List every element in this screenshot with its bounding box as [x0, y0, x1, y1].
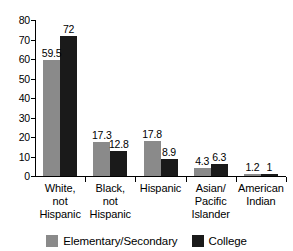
grouped-bar-chart: 01020304050607080 59.57217.312.817.88.94… — [0, 0, 293, 251]
y-axis-tick-mark — [31, 176, 36, 177]
x-axis-category-label: American Indian — [232, 182, 290, 208]
bar-value-label: 6.3 — [203, 152, 236, 163]
bar-elem — [244, 174, 261, 176]
legend-label: Elementary/Secondary — [63, 235, 177, 248]
bar-value-label: 1 — [253, 162, 286, 173]
bar-elem — [194, 168, 211, 176]
y-axis-tick-label: 50 — [0, 73, 30, 85]
legend-swatch-icon — [46, 235, 58, 247]
bar-value-label: 12.8 — [102, 139, 135, 150]
bar-coll — [161, 159, 178, 176]
y-axis-tick-label: 20 — [0, 131, 30, 143]
bar-value-label: 59.5 — [35, 48, 68, 59]
bar-value-label: 8.9 — [153, 147, 186, 158]
legend-item: College — [192, 235, 247, 248]
y-axis-tick-label: 0 — [0, 170, 30, 182]
x-axis-line — [35, 176, 286, 177]
chart-legend: Elementary/SecondaryCollege — [0, 233, 293, 249]
y-axis-tick-label: 40 — [0, 92, 30, 104]
y-axis-tick-label: 10 — [0, 151, 30, 163]
bar-elem — [43, 60, 60, 176]
y-axis-tick-label: 60 — [0, 53, 30, 65]
bar-coll — [110, 151, 127, 176]
legend-swatch-icon — [192, 235, 204, 247]
legend-item: Elementary/Secondary — [46, 235, 177, 248]
y-axis-tick-label: 80 — [0, 14, 30, 26]
y-axis-tick-label: 70 — [0, 34, 30, 46]
bar-value-label: 72 — [52, 24, 85, 35]
legend-label: College — [209, 235, 247, 248]
y-axis-tick-label: 30 — [0, 112, 30, 124]
bar-value-label: 17.8 — [136, 129, 169, 140]
bar-coll — [261, 174, 278, 176]
